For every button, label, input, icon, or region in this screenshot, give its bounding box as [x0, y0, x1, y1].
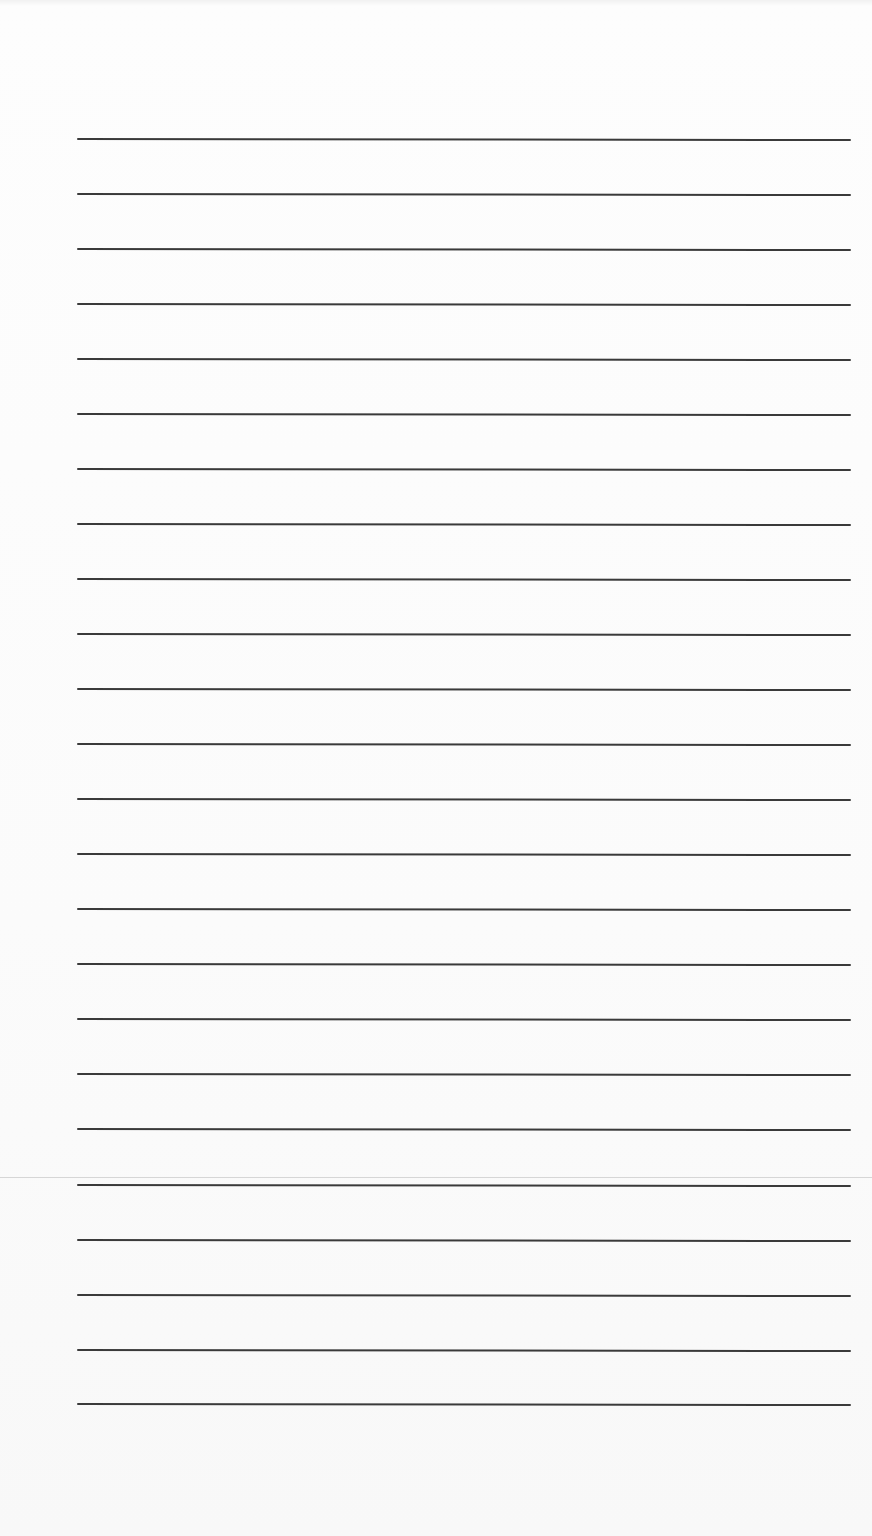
ruled-line [77, 633, 851, 636]
ruled-line [77, 303, 851, 306]
ruled-line [77, 1184, 851, 1187]
ruled-line [77, 853, 851, 856]
page-top-edge-shadow [0, 0, 872, 6]
ruled-line [77, 743, 851, 746]
ruled-line [77, 1349, 851, 1352]
ruled-line [77, 1239, 851, 1242]
ruled-line [77, 1128, 851, 1131]
ruled-line [77, 523, 851, 526]
ruled-line [77, 1294, 851, 1297]
ruled-line [77, 578, 851, 581]
ruled-line [77, 468, 851, 471]
ruled-line [77, 138, 851, 141]
ruled-line [77, 1073, 851, 1076]
ruled-line [77, 1403, 851, 1406]
lined-paper-page [0, 0, 872, 1536]
ruled-line [77, 358, 851, 361]
ruled-line [77, 688, 851, 691]
ruled-line [77, 798, 851, 801]
ruled-line [77, 908, 851, 911]
scan-seam-line [0, 1177, 872, 1178]
ruled-line [77, 963, 851, 966]
ruled-line [77, 248, 851, 251]
ruled-line [77, 1018, 851, 1021]
ruled-line [77, 413, 851, 416]
ruled-line [77, 193, 851, 196]
